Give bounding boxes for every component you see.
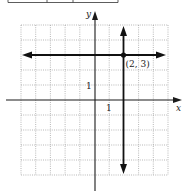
y-axis-arrow-icon bbox=[92, 11, 98, 20]
y-tick-label: 1 bbox=[86, 81, 92, 91]
arrow-right-icon bbox=[156, 52, 166, 59]
arrow-left-icon bbox=[22, 52, 32, 59]
point-2-3 bbox=[121, 52, 126, 57]
line-y-equals-3 bbox=[22, 52, 166, 59]
x-axis-label: x bbox=[176, 103, 181, 113]
arrow-down-icon bbox=[120, 164, 127, 174]
x-axis bbox=[6, 97, 182, 103]
arrow-up-icon bbox=[120, 26, 127, 36]
coordinate-plane: (2, 3) y x 1 1 bbox=[0, 0, 188, 194]
y-axis-label: y bbox=[85, 9, 92, 19]
point-label: (2, 3) bbox=[126, 59, 150, 69]
table-fragment bbox=[8, 0, 118, 3]
y-axis bbox=[92, 11, 98, 191]
x-tick-label: 1 bbox=[106, 103, 112, 113]
